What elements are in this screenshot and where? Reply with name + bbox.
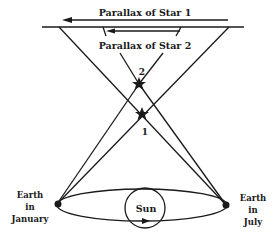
earth-january-label-line2: in — [25, 202, 34, 212]
sightline-star2-july-lower — [139, 84, 226, 205]
star1-label: 1 — [142, 127, 148, 137]
sun-label: Sun — [136, 203, 157, 214]
sightline-star2-july-upper — [120, 53, 139, 84]
star2-label: 2 — [139, 67, 145, 77]
earth-july-label-line1: Earth — [240, 193, 267, 203]
parallax-star2-label: Parallax of Star 2 — [99, 40, 192, 51]
earth-july-label-line2: in — [248, 205, 257, 215]
sightline-star2-july-top — [103, 27, 106, 36]
diagram-canvas: Parallax of Star 1 Parallax of Star 2 2 … — [0, 0, 277, 240]
parallax-star1-arrowhead — [62, 17, 72, 23]
orbit-direction-arrowhead — [142, 218, 150, 224]
earth-january-icon — [55, 201, 62, 208]
parallax-star1-label: Parallax of Star 1 — [99, 7, 192, 18]
earth-july-icon — [223, 202, 230, 209]
parallax-diagram: Parallax of Star 1 Parallax of Star 2 2 … — [0, 0, 277, 240]
star2-icon — [132, 77, 146, 90]
earth-july-label-line3: July — [243, 217, 263, 227]
earth-january-label-line3: January — [11, 214, 50, 224]
parallax-star2-arrowhead — [106, 29, 115, 34]
earth-january-label-line1: Earth — [17, 190, 44, 200]
sightline-star2-january-lower — [57, 84, 139, 204]
star1-icon — [135, 107, 149, 120]
